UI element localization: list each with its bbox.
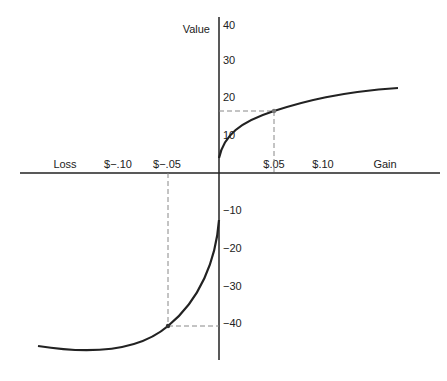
gain-curve bbox=[219, 88, 398, 158]
svg-text:−20: −20 bbox=[223, 242, 242, 254]
svg-text:$−.05: $−.05 bbox=[153, 158, 181, 170]
svg-text:−40: −40 bbox=[223, 317, 242, 329]
svg-text:−30: −30 bbox=[223, 280, 242, 292]
y-tick-labels: 40 30 20 10 −10 −20 −30 −40 bbox=[223, 19, 242, 329]
y-axis-title: Value bbox=[183, 23, 210, 35]
x-tick-labels: Loss $−.10 $−.05 $.05 $.10 Gain bbox=[53, 158, 396, 170]
svg-text:$−.10: $−.10 bbox=[104, 158, 132, 170]
loss-curve bbox=[38, 220, 219, 350]
loss-label: Loss bbox=[53, 158, 77, 170]
value-function-chart: Value 40 30 20 10 −10 −20 −30 −40 Loss $… bbox=[0, 0, 447, 381]
reference-guides bbox=[168, 111, 274, 326]
gain-reference-point bbox=[272, 109, 276, 113]
loss-reference-point bbox=[166, 324, 170, 328]
svg-text:40: 40 bbox=[223, 19, 235, 31]
gain-label: Gain bbox=[373, 158, 396, 170]
svg-text:$.10: $.10 bbox=[312, 158, 333, 170]
svg-text:−10: −10 bbox=[223, 204, 242, 216]
svg-text:30: 30 bbox=[223, 54, 235, 66]
svg-text:20: 20 bbox=[223, 91, 235, 103]
